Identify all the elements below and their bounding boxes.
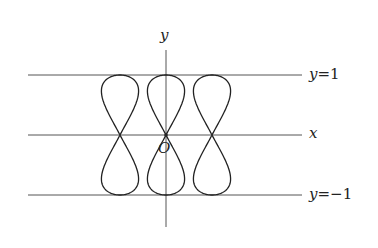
diagram-canvas — [0, 0, 378, 248]
label-y-equals-minus-1: y=−1 — [309, 187, 352, 202]
origin-label: O — [158, 141, 170, 156]
label-eq: = — [317, 65, 330, 83]
origin-point — [164, 133, 168, 137]
label-eq: = — [317, 185, 330, 203]
x-axis-label: x — [309, 126, 317, 141]
label-val: 1 — [330, 65, 340, 83]
y-axis-label: y — [160, 28, 168, 43]
label-val: −1 — [330, 185, 352, 203]
label-y-equals-1: y=1 — [309, 67, 340, 82]
